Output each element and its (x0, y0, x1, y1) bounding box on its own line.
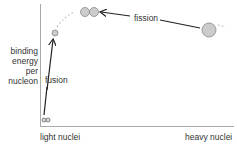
y-label-line-3: per (2, 66, 38, 76)
x-label-light-nuclei: light nuclei (40, 132, 80, 142)
fission-label: fission (134, 13, 158, 23)
y-label-line-1: binding (2, 46, 38, 56)
fission-product-a (81, 8, 90, 17)
binding-energy-curve-tail (218, 25, 226, 27)
binding-energy-curve (57, 12, 74, 27)
y-axis-label: binding energy per nucleon (2, 46, 38, 86)
light-nucleus-b (46, 118, 50, 122)
fusion-arrow-lower (44, 87, 47, 115)
x-label-heavy-nuclei: heavy nuclei (185, 132, 232, 142)
y-label-line-4: nucleon (2, 76, 38, 86)
heavy-nucleus (202, 23, 216, 37)
fission-arrow-right (160, 20, 200, 28)
light-nucleus-a (42, 118, 46, 122)
fission-arrow-left (101, 12, 130, 16)
y-label-line-2: energy (2, 56, 38, 66)
fused-nucleus (52, 30, 58, 36)
fusion-label: fusion (45, 75, 68, 85)
fission-product-b (90, 8, 99, 17)
